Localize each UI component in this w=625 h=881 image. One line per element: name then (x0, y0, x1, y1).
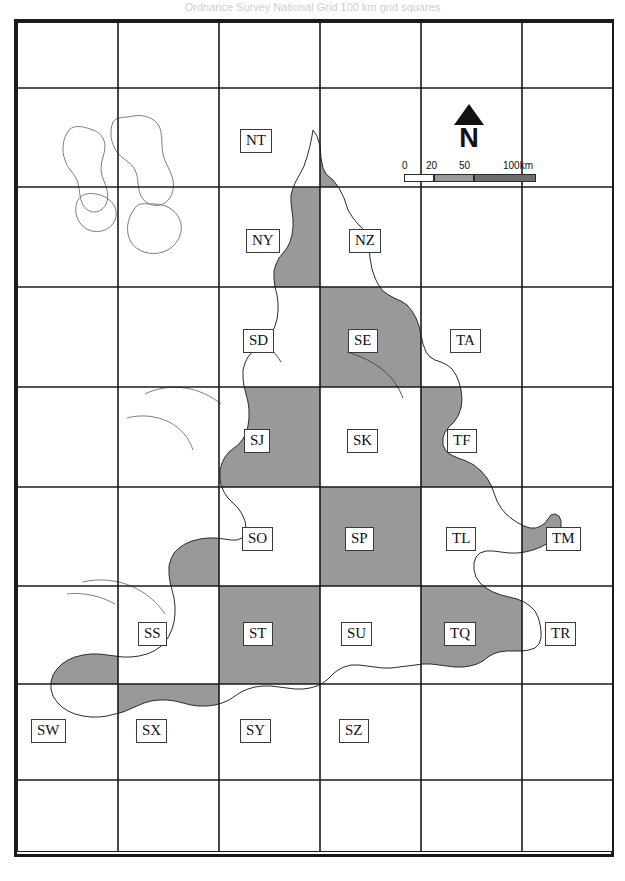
checkerboard-cell (118, 684, 219, 780)
grid-square-label-sk: SK (347, 429, 378, 453)
grid-square-label-so: SO (242, 527, 273, 551)
scale-tick-50: 50 (459, 160, 470, 171)
checkerboard-cell (17, 187, 118, 287)
checkerboard-cell (421, 22, 522, 88)
scale-bar-ticks: 0 20 50 100km (402, 160, 548, 171)
north-arrow: N (452, 104, 486, 164)
checkerboard-cell (522, 287, 613, 387)
scotland-outline-fragment (63, 115, 181, 253)
map-drawing-area (17, 22, 613, 852)
figure-title-fragment: Ordnance Survey National Grid 100 km gri… (0, 0, 625, 14)
grid-square-label-sj: SJ (244, 429, 270, 453)
grid-square-label-sz: SZ (339, 719, 369, 743)
grid-square-label-ss: SS (138, 622, 167, 646)
checkerboard-cell (219, 22, 320, 88)
north-arrow-label: N (452, 124, 486, 152)
grid-square-label-st: ST (243, 622, 273, 646)
checkerboard-cell (522, 684, 613, 780)
grid-square-label-tq: TQ (444, 622, 476, 646)
scale-segment-50-100 (474, 174, 536, 182)
grid-square-label-sp: SP (345, 527, 374, 551)
checkerboard-cell (320, 684, 421, 780)
scale-bar-segments (404, 174, 536, 182)
national-grid-reference-map: Ordnance Survey National Grid 100 km gri… (0, 0, 625, 881)
checkerboard-cell (17, 586, 118, 684)
grid-square-label-ta: TA (450, 329, 481, 353)
grid-square-label-tm: TM (546, 527, 581, 551)
scale-bar: 0 20 50 100km (402, 160, 548, 184)
checkerboard-cell (17, 780, 118, 852)
grid-square-label-tl: TL (446, 527, 476, 551)
checkerboard-cell (118, 88, 219, 187)
checkerboard-cell (421, 187, 522, 287)
grid-square-label-tr: TR (545, 622, 576, 646)
grid-square-label-ny: NY (246, 229, 280, 253)
scale-tick-100: 100km (503, 160, 533, 171)
checkerboard-cell (219, 780, 320, 852)
scale-tick-0: 0 (402, 160, 408, 171)
checkerboard-cell (17, 22, 118, 88)
scale-segment-20-50 (434, 174, 474, 182)
north-arrow-triangle-icon (454, 104, 484, 125)
grid-square-label-nt: NT (240, 129, 272, 153)
grid-square-label-sw: SW (31, 719, 66, 743)
checkerboard-cell (17, 387, 118, 487)
checkerboard-cell (421, 780, 522, 852)
grid-square-label-tf: TF (447, 429, 477, 453)
grid-square-label-sd: SD (243, 329, 274, 353)
scale-segment-0-20 (404, 174, 434, 182)
grid-square-label-su: SU (341, 622, 372, 646)
scale-tick-20: 20 (426, 160, 437, 171)
checkerboard-cell (118, 287, 219, 387)
grid-square-label-sy: SY (240, 719, 271, 743)
grid-square-label-sx: SX (136, 719, 167, 743)
grid-square-label-nz: NZ (349, 229, 381, 253)
grid-square-label-se: SE (348, 329, 378, 353)
